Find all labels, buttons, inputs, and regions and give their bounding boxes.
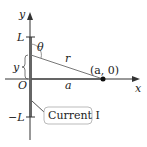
- current-wire: [29, 37, 32, 117]
- diagram-canvas: y x O L −L θ r y a (a, 0) Current I: [0, 0, 147, 147]
- tick-label-L: L: [16, 31, 24, 44]
- point-label: (a, 0): [90, 64, 119, 77]
- tick-label-minus-L: −L: [8, 111, 25, 124]
- theta-label: θ: [37, 41, 44, 54]
- origin-label: O: [18, 79, 27, 92]
- y-arrow-icon: [27, 12, 33, 20]
- point-a0: [101, 77, 106, 82]
- y-brace-icon: [22, 55, 28, 79]
- y-axis-label: y: [18, 8, 26, 21]
- a-segment-label: a: [65, 79, 72, 92]
- x-axis-label: x: [135, 82, 142, 95]
- r-label: r: [65, 52, 71, 65]
- callout-leader: [32, 101, 44, 112]
- y-segment-label: y: [12, 61, 20, 74]
- callout-text: Current I: [48, 109, 100, 122]
